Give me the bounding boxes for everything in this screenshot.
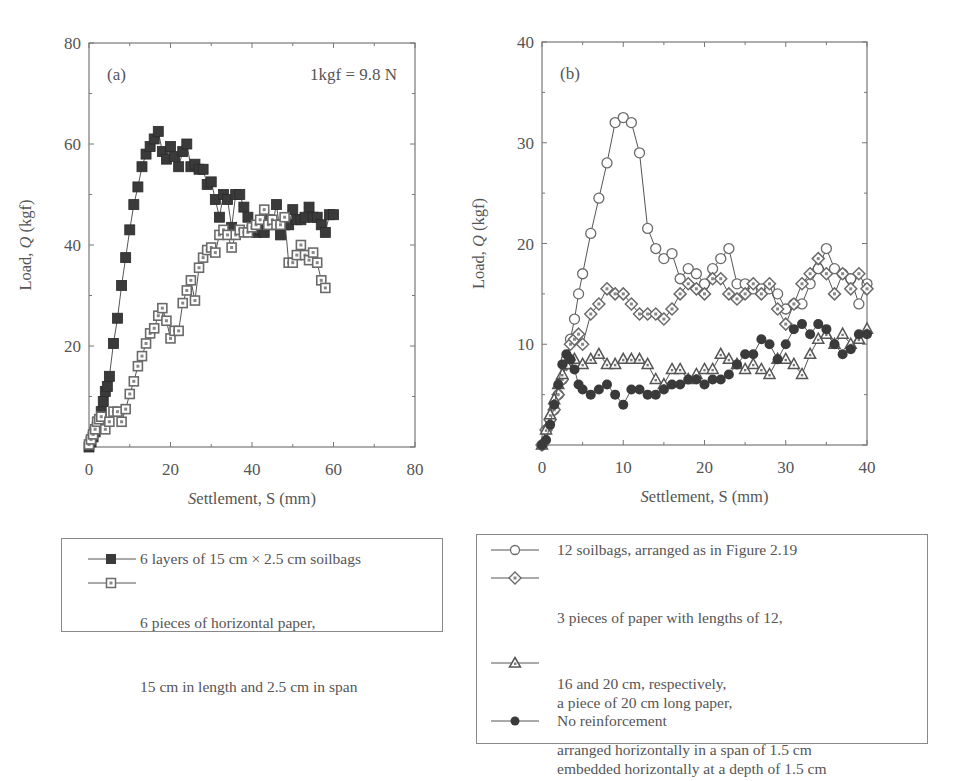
series-open-circle (537, 113, 872, 450)
legend-a-label-paper: 6 pieces of horizontal paper, 15 cm in l… (140, 573, 357, 737)
unit-annotation: 1kgf = 9.8 N (310, 65, 397, 84)
y-tick-label: 60 (64, 135, 81, 154)
y-axis-label: Load, Q (kgf) (16, 199, 35, 290)
panel-a: 02040608020406080Settlement, S (mm)Load,… (16, 34, 424, 508)
y-axis-label: Load, Q (kgf) (469, 198, 488, 289)
series-open-square-dot (85, 205, 330, 449)
y-tick-label: 40 (64, 236, 81, 255)
y-tick-label: 20 (517, 235, 534, 254)
panel-label: (a) (107, 65, 126, 84)
x-tick-label: 60 (325, 460, 342, 479)
x-tick-label: 40 (859, 458, 876, 477)
legend-b-label-soilbags: 12 soilbags, arranged as in Figure 2.19 (557, 540, 797, 560)
open-square-marker-icon (88, 573, 136, 593)
x-axis-label: Settlement, S (mm) (188, 489, 316, 508)
legend-b: 12 soilbags, arranged as in Figure 2.19 … (476, 534, 928, 744)
x-axis-label: Settlement, S (mm) (641, 487, 769, 506)
open-triangle-marker-icon (491, 653, 539, 673)
series-filled-square (84, 126, 339, 452)
y-tick-label: 40 (517, 33, 534, 52)
x-tick-label: 20 (696, 458, 713, 477)
y-tick-label: 80 (64, 34, 81, 53)
y-tick-label: 10 (517, 335, 534, 354)
filled-circle-marker-icon (491, 711, 539, 731)
x-tick-label: 0 (538, 458, 547, 477)
x-tick-label: 40 (244, 460, 261, 479)
legend-a: 6 layers of 15 cm × 2.5 cm soilbags 6 pi… (61, 538, 443, 632)
y-tick-label: 20 (64, 337, 81, 356)
x-tick-label: 30 (777, 458, 794, 477)
x-tick-label: 10 (615, 458, 632, 477)
legend-b-label-no-reinforcement: No reinforcement (557, 711, 667, 731)
x-tick-label: 0 (85, 460, 94, 479)
open-diamond-marker-icon (491, 568, 539, 588)
x-tick-label: 20 (162, 460, 179, 479)
panel-b: 01020304010203040Settlement, S (mm)Load,… (469, 33, 876, 506)
x-tick-label: 80 (407, 460, 424, 479)
open-circle-marker-icon (491, 540, 539, 560)
panel-label: (b) (560, 64, 580, 83)
y-tick-label: 30 (517, 134, 534, 153)
legend-a-label-soilbags: 6 layers of 15 cm × 2.5 cm soilbags (140, 549, 361, 569)
filled-square-marker-icon (88, 549, 136, 569)
